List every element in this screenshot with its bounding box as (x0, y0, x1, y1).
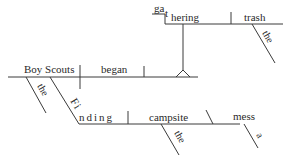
complement-modifier-mess: a (254, 131, 266, 141)
gerund-part1-finding: Fi (68, 96, 84, 112)
stilt-pedestal (176, 70, 190, 77)
gerund-part2-top: t (165, 7, 168, 19)
gerund-part3-top: hering (171, 11, 200, 23)
verb-word: began (101, 63, 128, 75)
gerund-complement-finding: mess (233, 110, 255, 122)
gerund-object-top: trash (244, 11, 266, 23)
gerund-part1-top: ga (154, 2, 165, 14)
sentence-diagram: ga t hering trash the Boy Scouts began t… (0, 0, 291, 161)
gerund-object-finding: campsite (149, 111, 188, 123)
object-complement-slash (206, 110, 213, 124)
object-modifier-campsite: the (172, 129, 188, 146)
subject-word: Boy Scouts (24, 63, 74, 75)
gerund-part2-finding: nding (79, 111, 114, 123)
subject-modifier: the (35, 82, 51, 99)
